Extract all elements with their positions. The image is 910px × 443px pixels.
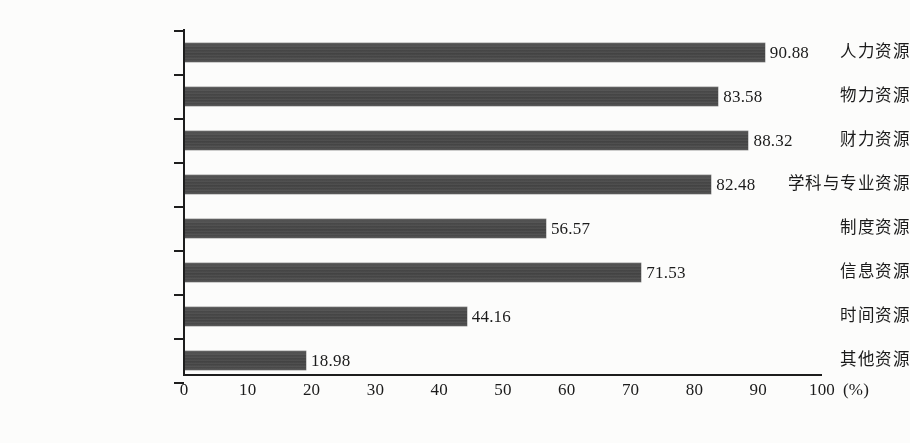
bar-row: 信息资源71.53	[0, 250, 910, 294]
bar-value-label: 88.32	[753, 131, 792, 150]
bar	[185, 263, 641, 282]
category-label: 学科与专业资源	[734, 174, 910, 194]
bar-value-label: 83.58	[723, 87, 762, 106]
x-axis-tick-label: 70	[611, 380, 651, 400]
x-axis-tick-label: 80	[674, 380, 714, 400]
bar-value-label: 56.57	[551, 219, 590, 238]
x-axis-tick-label: 20	[292, 380, 332, 400]
x-axis-tick-label: 10	[228, 380, 268, 400]
category-label: 其他资源	[734, 350, 910, 370]
x-axis-unit-label: (%)	[843, 380, 869, 400]
bar-row: 时间资源44.16	[0, 294, 910, 338]
bar-chart-figure: 人力资源90.88物力资源83.58财力资源88.32学科与专业资源82.48制…	[0, 0, 910, 443]
bar-value-label: 18.98	[311, 351, 350, 370]
bar	[185, 131, 748, 150]
x-axis-tick-label: 0	[164, 380, 204, 400]
bar	[185, 351, 306, 370]
x-axis-tick-label: 50	[483, 380, 523, 400]
x-axis-tick-label: 30	[355, 380, 395, 400]
x-axis-tick-label: 100	[802, 380, 842, 400]
bar-row: 制度资源56.57	[0, 206, 910, 250]
category-label: 信息资源	[734, 262, 910, 282]
bar-value-label: 44.16	[472, 307, 511, 326]
category-label: 时间资源	[734, 306, 910, 326]
bar	[185, 43, 765, 62]
bar-row: 其他资源18.98	[0, 338, 910, 382]
plot-area: 人力资源90.88物力资源83.58财力资源88.32学科与专业资源82.48制…	[0, 0, 910, 443]
bar-value-label: 82.48	[716, 175, 755, 194]
bar-value-label: 90.88	[770, 43, 809, 62]
bar-row: 财力资源88.32	[0, 118, 910, 162]
bar	[185, 175, 711, 194]
bar-row: 物力资源83.58	[0, 74, 910, 118]
bar-value-label: 71.53	[646, 263, 685, 282]
x-axis-tick-label: 40	[419, 380, 459, 400]
bar	[185, 87, 718, 106]
bar-row: 人力资源90.88	[0, 30, 910, 74]
x-axis-tick-label: 60	[547, 380, 587, 400]
bar	[185, 307, 467, 326]
bar-row: 学科与专业资源82.48	[0, 162, 910, 206]
x-axis-tick-label: 90	[738, 380, 778, 400]
bar	[185, 219, 546, 238]
category-label: 制度资源	[734, 218, 910, 238]
